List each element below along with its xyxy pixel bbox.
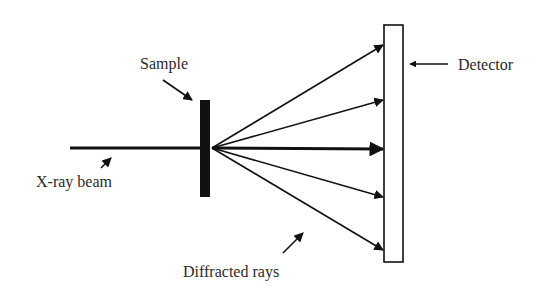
sample-label: Sample (140, 56, 188, 72)
diffracted-ray-4 (212, 148, 383, 197)
detector-panel (384, 25, 403, 262)
xray-beam-label: X-ray beam (36, 174, 112, 190)
diffracted-ray-center (212, 148, 383, 149)
diffracted-rays-fan (212, 45, 383, 250)
sample-plate (200, 100, 210, 197)
sample-pointer-arrow (163, 80, 192, 100)
diffracted-rays-pointer-arrow (283, 233, 303, 253)
detector-label: Detector (458, 57, 513, 73)
xrd-diagram (0, 0, 552, 303)
diffracted-ray-2 (212, 100, 383, 148)
xray-beam-pointer-arrow (101, 158, 111, 168)
diffracted-ray-1 (212, 45, 383, 148)
diffracted-rays-label: Diffracted rays (183, 264, 279, 280)
diffracted-ray-5 (212, 148, 383, 250)
